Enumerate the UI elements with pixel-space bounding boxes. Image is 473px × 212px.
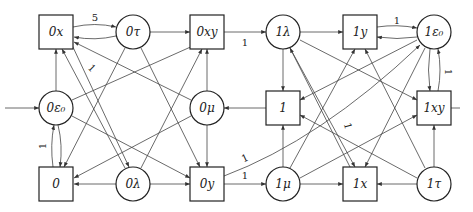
node-0y: 0y (190, 167, 224, 201)
node-0lambda: 0λ (116, 167, 150, 201)
node-0x: 0x (39, 15, 73, 49)
node-label: 1μ (275, 177, 291, 191)
node-1xy: 1xy (417, 91, 451, 125)
node-label: 0x (49, 25, 64, 39)
edge-label: 1 (240, 152, 250, 165)
node-0: 0 (39, 167, 73, 201)
node-label: 0λ (125, 177, 140, 191)
node-label: 1λ (275, 25, 290, 39)
node-1mu: 1μ (266, 167, 300, 201)
edge-label: 1 (86, 62, 98, 74)
edge-labels: 5 1 1 1 1 1 1 1 1 (37, 12, 454, 181)
node-label: 0τ (126, 25, 141, 39)
node-label: 0xy (196, 25, 217, 39)
state-diagram: 5 1 1 1 1 1 1 1 1 0x 0τ 0xy 1λ 1y 1ε₀ 0ε… (0, 0, 473, 212)
node-0mu: 0μ (190, 91, 224, 125)
node-label: 0 (52, 177, 60, 191)
node-label: 1ε₀ (425, 25, 444, 39)
node-0tau: 0τ (116, 15, 150, 49)
edge-label: 1 (37, 143, 48, 149)
node-0eps0: 0ε₀ (39, 91, 73, 125)
node-label: 1x (353, 177, 368, 191)
node-1tau: 1τ (417, 167, 451, 201)
edge-label: 1 (242, 170, 248, 181)
node-1y: 1y (343, 15, 377, 49)
node-1eps0: 1ε₀ (417, 15, 451, 49)
edge-label: 1 (342, 121, 354, 130)
node-0xy: 0xy (190, 15, 224, 49)
node-label: 1 (279, 101, 287, 115)
node-1x: 1x (343, 167, 377, 201)
diagram-svg: 5 1 1 1 1 1 1 1 1 0x 0τ 0xy 1λ 1y 1ε₀ 0ε… (0, 0, 473, 212)
node-label: 1y (353, 25, 368, 39)
edge-label: 1 (394, 15, 400, 26)
node-label: 1τ (427, 177, 442, 191)
node-label: 0y (200, 177, 215, 191)
node-1lambda: 1λ (266, 15, 300, 49)
node-label: 0ε₀ (47, 101, 66, 115)
edge-label: 1 (242, 37, 248, 48)
edge-label: 1 (443, 69, 454, 75)
node-1: 1 (266, 91, 300, 125)
node-label: 0μ (199, 101, 215, 115)
edge-label: 5 (92, 12, 98, 23)
node-label: 1xy (423, 101, 444, 115)
